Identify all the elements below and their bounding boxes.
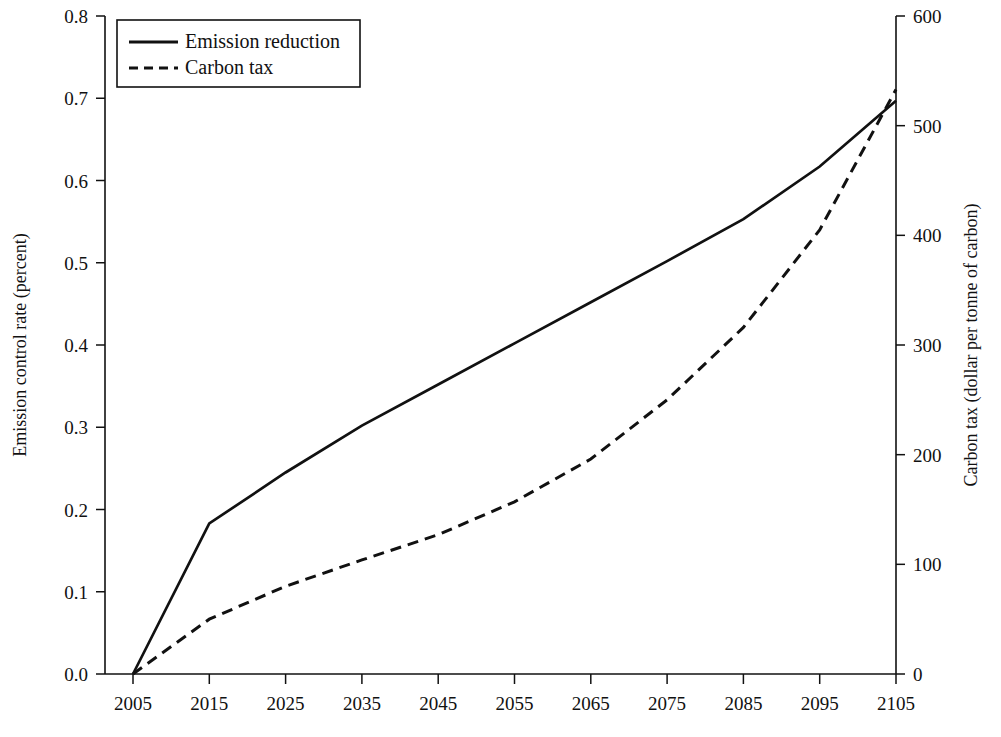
left-tick-label: 0.1 [64,582,88,603]
bottom-tick-label: 2065 [572,693,610,714]
bottom-tick-label: 2035 [343,693,381,714]
bottom-tick-label: 2075 [648,693,686,714]
right-tick-label: 400 [913,225,942,246]
series-line-emission-reduction [133,101,896,674]
left-tick-label: 0.7 [64,88,88,109]
left-tick-label: 0.6 [64,171,88,192]
right-tick-label: 0 [913,664,923,685]
bottom-tick-label: 2005 [114,693,152,714]
right-tick-label: 200 [913,445,942,466]
legend-label-emission-reduction: Emission reduction [185,30,340,52]
bottom-tick-label: 2015 [190,693,228,714]
right-tick-label: 100 [913,554,942,575]
bottom-tick-label: 2025 [267,693,305,714]
right-tick-label: 600 [913,6,942,27]
left-axis-ticks: 0.0 0.1 0.2 0.3 0.4 0.5 0.6 0.7 0.8 [64,6,105,685]
right-axis-ticks: 0 100 200 300 400 500 600 [896,6,942,685]
bottom-axis-ticks: 2005 2015 2025 2035 2045 2055 2065 2075 … [114,674,915,714]
left-tick-label: 0.0 [64,664,88,685]
left-tick-label: 0.4 [64,335,88,356]
legend-label-carbon-tax: Carbon tax [185,56,273,78]
left-tick-label: 0.8 [64,6,88,27]
left-tick-label: 0.3 [64,417,88,438]
left-axis-title: Emission control rate (percent) [10,233,31,456]
left-tick-label: 0.2 [64,500,88,521]
bottom-tick-label: 2045 [419,693,457,714]
bottom-tick-label: 2055 [496,693,534,714]
series-line-carbon-tax [133,89,896,674]
right-tick-label: 300 [913,335,942,356]
left-tick-label: 0.5 [64,253,88,274]
right-tick-label: 500 [913,116,942,137]
bottom-tick-label: 2085 [724,693,762,714]
chart-figure: 0.0 0.1 0.2 0.3 0.4 0.5 0.6 0.7 0.8 0 10… [0,0,1001,737]
chart-legend: Emission reduction Carbon tax [117,20,360,87]
bottom-tick-label: 2105 [877,693,915,714]
right-axis-title: Carbon tax (dollar per tonne of carbon) [961,204,982,487]
chart-canvas: 0.0 0.1 0.2 0.3 0.4 0.5 0.6 0.7 0.8 0 10… [0,0,1001,737]
bottom-tick-label: 2095 [801,693,839,714]
